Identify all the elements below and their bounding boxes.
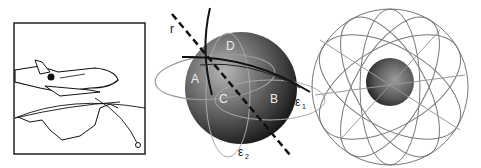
figure-svg: r D A C B ε 1 ε 2 <box>0 0 481 168</box>
constellation-panel <box>302 2 477 168</box>
label-b: B <box>270 92 278 106</box>
label-epsilon-2-sub: 2 <box>245 153 249 160</box>
label-epsilon-1: ε <box>295 95 301 109</box>
label-epsilon-2: ε <box>238 145 244 159</box>
airplane-panel <box>14 23 145 154</box>
label-epsilon-1-sub: 1 <box>302 103 306 110</box>
sphere-panel: r D A C B ε 1 ε 2 <box>153 8 325 160</box>
figure: r D A C B ε 1 ε 2 <box>0 0 481 168</box>
label-c: C <box>219 92 228 106</box>
label-d: D <box>226 39 235 53</box>
label-r: r <box>170 22 174 36</box>
label-a: A <box>191 72 199 86</box>
